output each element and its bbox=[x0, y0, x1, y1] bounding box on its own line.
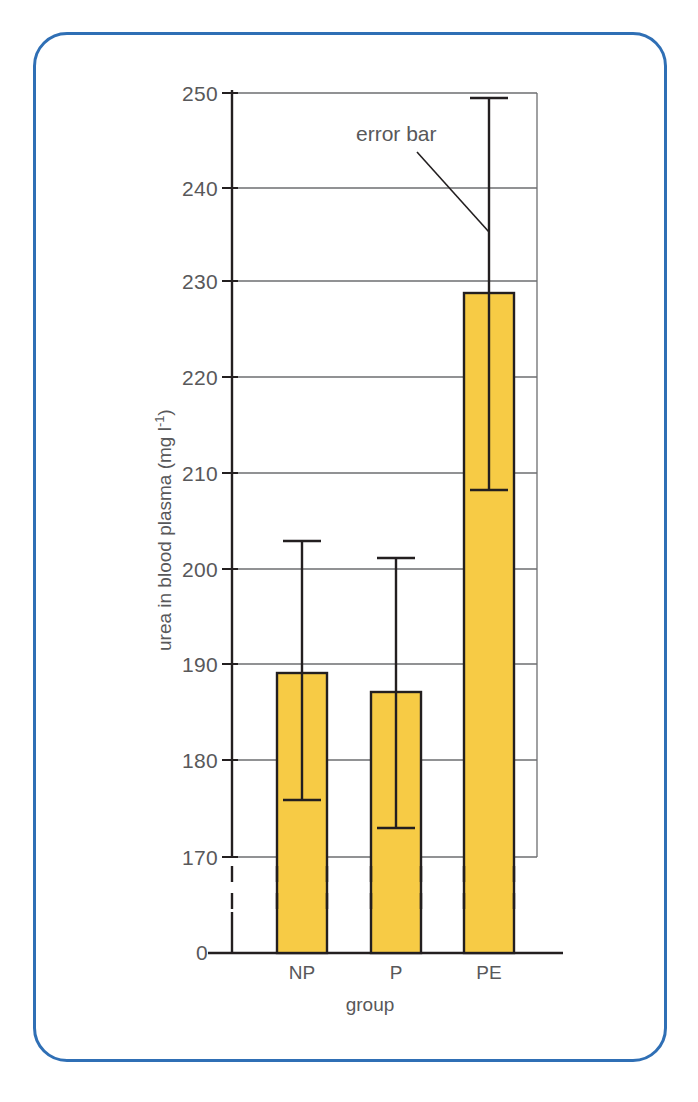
y-axis-title-exponent: -1 bbox=[152, 416, 167, 427]
y-axis-title-main: urea in blood plasma (mg l bbox=[154, 427, 175, 651]
bar-group-pe[interactable] bbox=[464, 98, 514, 953]
y-tick-label-250: 250 bbox=[166, 82, 218, 106]
y-tick-marks bbox=[214, 93, 238, 953]
y-tick-label-180: 180 bbox=[166, 749, 218, 773]
y-axis-title-close: ) bbox=[154, 409, 175, 415]
y-tick-label-zero: 0 bbox=[166, 941, 208, 965]
bar-chart bbox=[0, 0, 698, 1102]
x-tick-label-p: P bbox=[366, 962, 426, 984]
x-axis-title: group bbox=[315, 994, 425, 1016]
y-axis-title: urea in blood plasma (mg l-1) bbox=[152, 409, 176, 651]
x-tick-label-np: NP bbox=[272, 962, 332, 984]
annotation-leader-line bbox=[417, 152, 489, 232]
y-tick-label-230: 230 bbox=[166, 270, 218, 294]
y-tick-label-240: 240 bbox=[166, 177, 218, 201]
bar-group-p[interactable] bbox=[371, 558, 421, 953]
y-tick-label-190: 190 bbox=[166, 653, 218, 677]
bar-group-np[interactable] bbox=[277, 541, 327, 953]
x-tick-label-pe: PE bbox=[459, 962, 519, 984]
y-tick-label-170: 170 bbox=[166, 846, 218, 870]
y-tick-label-220: 220 bbox=[166, 366, 218, 390]
error-bar-annotation-label: error bar bbox=[356, 122, 437, 146]
